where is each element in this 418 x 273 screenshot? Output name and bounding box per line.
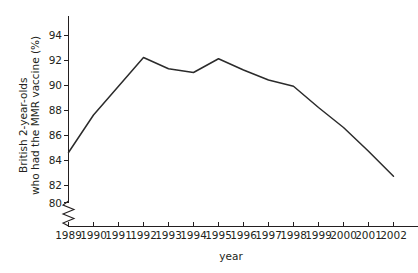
x-tick-label-1991: 1991: [105, 229, 132, 241]
y-axis-title-line1: British 2-year-olds: [17, 78, 29, 173]
x-tick-label-1998: 1998: [280, 229, 307, 241]
y-tick-label-80: 80: [49, 197, 62, 209]
x-tick-label-2001: 2001: [355, 229, 382, 241]
x-tick-label-1996: 1996: [230, 229, 257, 241]
line-chart: British 2-year-olds who had the MMR vacc…: [0, 0, 418, 273]
y-axis-title-line2: who had the MMR vaccine (%): [29, 36, 41, 195]
x-tick-label-2002: 2002: [380, 229, 407, 241]
y-tick-label-86: 86: [49, 129, 63, 141]
y-tick-label-84: 84: [49, 154, 63, 166]
y-tick-label-82: 82: [49, 179, 62, 191]
data-series-line: [69, 58, 394, 177]
y-tick-label-90: 90: [49, 79, 62, 91]
x-axis-title: year: [219, 250, 243, 262]
y-tick-label-88: 88: [49, 104, 62, 116]
x-tick-label-1994: 1994: [180, 229, 207, 241]
x-tick-label-1990: 1990: [80, 229, 107, 241]
x-tick-label-1995: 1995: [205, 229, 232, 241]
x-tick-label-1989: 1989: [55, 229, 82, 241]
x-tick-label-1992: 1992: [130, 229, 157, 241]
chart-figure: British 2-year-olds who had the MMR vacc…: [0, 0, 418, 273]
x-tick-label-1999: 1999: [305, 229, 332, 241]
y-tick-label-92: 92: [49, 54, 62, 66]
y-tick-label-94: 94: [49, 29, 63, 41]
x-tick-label-1993: 1993: [155, 229, 182, 241]
x-tick-label-2000: 2000: [330, 229, 357, 241]
x-tick-label-1997: 1997: [255, 229, 282, 241]
